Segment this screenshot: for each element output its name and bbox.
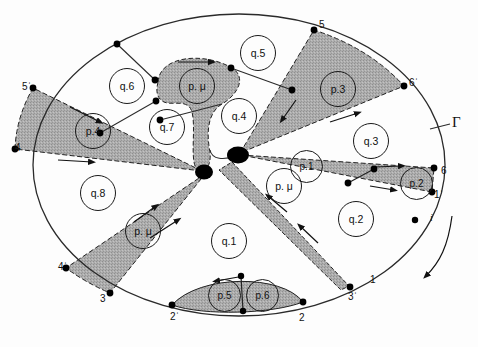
- orientation-marker-label: i: [430, 213, 433, 223]
- boundary-label-4: 4: [15, 143, 21, 153]
- edge-q5-right: [231, 68, 292, 90]
- vertex-5: [311, 27, 318, 34]
- cell-label-p2: p.2: [400, 167, 433, 200]
- vertex-orient-dot: [412, 217, 418, 223]
- cell-label-pmu-left: p. μ: [125, 213, 161, 249]
- cell-label-pmu-right: p. μ: [266, 168, 302, 204]
- arrow-p4-lower: [58, 160, 92, 162]
- arrow-orientation: [426, 216, 452, 276]
- cell-label-q8: q.8: [80, 175, 116, 211]
- cell-label-pmu-top: p. μ: [179, 68, 215, 104]
- boundary-label-2prime: 2ˈ: [170, 312, 179, 322]
- cell-label-q7: q.7: [149, 109, 185, 145]
- cell-label-p5: p.5: [208, 279, 241, 312]
- vertex-2: [300, 299, 307, 306]
- boundary-label-3: 3: [100, 294, 106, 304]
- cell-label-q4: q.4: [221, 98, 257, 134]
- cell-label-p4: p.4: [75, 113, 111, 149]
- cell-label-q6: q.6: [109, 68, 145, 104]
- boundary-label-1prime: 1ˈ: [434, 190, 443, 200]
- cell-label-q3: q.3: [353, 123, 389, 159]
- cell-label-q2: q.2: [338, 201, 374, 237]
- vertex-p5p6-top: [238, 273, 244, 279]
- boundary-label-2: 2: [299, 313, 305, 323]
- vertex-q5-b: [289, 87, 296, 94]
- cell-label-p6: p.6: [246, 279, 279, 312]
- vertex-q5-a: [228, 65, 235, 72]
- vertex-top-q6: [114, 41, 121, 48]
- cell-label-q1: q.1: [211, 223, 247, 259]
- vertex-3prime: [347, 284, 354, 291]
- arrow-p1-lower: [370, 186, 394, 190]
- vertex-p1p2-a: [345, 180, 352, 187]
- boundary-label-4prime: 4ˈ: [58, 262, 67, 272]
- vertex-2prime: [169, 302, 176, 309]
- vertex-6prime: [401, 83, 408, 90]
- vertex-q6-mid: [152, 77, 159, 84]
- cell-label-p3: p.3: [320, 71, 356, 107]
- boundary-label-3prime: 3ˈ: [348, 292, 357, 302]
- vertex-6: [431, 165, 438, 172]
- boundary-label-1: 1: [370, 275, 376, 285]
- vertex-q7-top: [153, 98, 160, 105]
- center-node-right: [227, 147, 249, 164]
- gamma-leader-line: [430, 124, 450, 129]
- figure-canvas: q.1 q.2 q.3 q.4 q.5 q.6 q.7 q.8 p.1 p.2 …: [0, 0, 478, 347]
- boundary-label-6prime: 6ˈ: [409, 78, 418, 88]
- cell-label-q5: q.5: [240, 35, 276, 71]
- vertex-3: [107, 290, 114, 297]
- gamma-label: Γ: [452, 114, 461, 131]
- boundary-label-6: 6: [441, 166, 447, 176]
- boundary-label-5prime: 5ˈ: [22, 82, 31, 92]
- vertex-p5p6-bot: [240, 308, 246, 314]
- boundary-label-5: 5: [319, 20, 325, 30]
- center-node-left: [195, 165, 213, 180]
- vertex-p1p2-b: [371, 166, 378, 173]
